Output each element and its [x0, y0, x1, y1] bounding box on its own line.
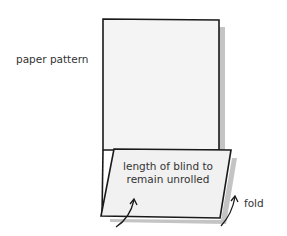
fold-label: fold — [244, 197, 264, 209]
paper-sheet — [103, 19, 219, 150]
flap-label-line2: remain unrolled — [110, 173, 226, 186]
flap-label-line1: length of blind to — [110, 160, 226, 173]
sheet-shadow — [219, 27, 225, 152]
flap-label: length of blind to remain unrolled — [110, 160, 226, 186]
paper-pattern-label: paper pattern — [16, 53, 88, 65]
